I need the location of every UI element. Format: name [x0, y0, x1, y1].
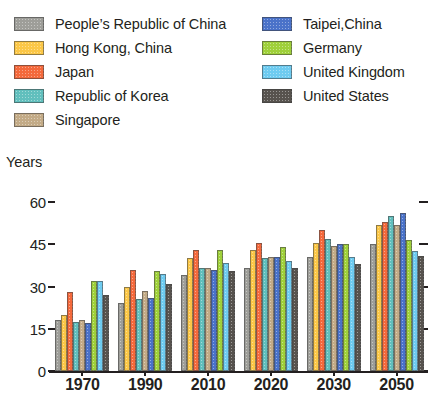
legend-item-label: People’s Republic of China	[55, 16, 226, 32]
bar[interactable]	[103, 295, 109, 371]
legend-swatch-japan	[14, 65, 44, 79]
legend-item[interactable]: People’s Republic of China	[14, 12, 244, 36]
bar-group-bars	[307, 202, 361, 371]
legend-swatch-hong-kong	[14, 41, 44, 55]
legend-item[interactable]: Taipei,China	[262, 12, 432, 36]
legend-swatch-uk	[262, 65, 292, 79]
bar-group: 1990	[114, 202, 177, 371]
legend-item-label: Japan	[55, 64, 94, 80]
legend-item-label: United Kingdom	[303, 64, 405, 80]
legend-swatch-korea	[14, 89, 44, 103]
bar[interactable]	[418, 256, 424, 371]
y-axis-tick-label: 30	[0, 278, 46, 295]
plot-area: 197019902010202020302050	[51, 202, 428, 371]
legend-item[interactable]: Japan	[14, 60, 244, 84]
bar[interactable]	[166, 284, 172, 371]
bar-group: 1970	[51, 202, 114, 371]
x-axis-tick-label: 2030	[302, 376, 365, 394]
legend-item-label: Taipei,China	[303, 16, 382, 32]
bar-group-bars	[244, 202, 298, 371]
x-axis-tick-label: 2050	[365, 376, 428, 394]
legend-item-label: United States	[303, 88, 389, 104]
bar-chart: Years 015304560 197019902010202020302050	[0, 142, 432, 403]
legend-swatch-taipei	[262, 17, 292, 31]
legend-column-right: Taipei,ChinaGermanyUnited KingdomUnited …	[262, 12, 432, 108]
legend-item[interactable]: Singapore	[14, 108, 244, 132]
bar-group: 2030	[302, 202, 365, 371]
x-axis-line	[49, 371, 428, 373]
legend-swatch-germany	[262, 41, 292, 55]
x-axis-tick-label: 2010	[177, 376, 240, 394]
legend-item[interactable]: United States	[262, 84, 432, 108]
legend-item[interactable]: Republic of Korea	[14, 84, 244, 108]
legend-item[interactable]: United Kingdom	[262, 60, 432, 84]
y-axis-tick-label: 0	[0, 363, 46, 380]
legend-column-left: People’s Republic of ChinaHong Kong, Chi…	[14, 12, 244, 132]
bar[interactable]	[355, 264, 361, 371]
legend-item-label: Hong Kong, China	[55, 40, 172, 56]
x-axis-tick-label: 1970	[51, 376, 114, 394]
y-axis-tick-label: 60	[0, 194, 46, 211]
y-axis-title: Years	[6, 154, 42, 170]
y-axis-tick-label: 45	[0, 236, 46, 253]
y-axis-tick-label: 15	[0, 320, 46, 337]
bar[interactable]	[292, 268, 298, 371]
bar-group-bars	[181, 202, 235, 371]
legend-item[interactable]: Germany	[262, 36, 432, 60]
bar[interactable]	[229, 271, 235, 371]
bar-group: 2050	[365, 202, 428, 371]
legend-item-label: Germany	[303, 40, 362, 56]
legend-swatch-prc	[14, 17, 44, 31]
legend-swatch-usa	[262, 89, 292, 103]
legend-item-label: Republic of Korea	[55, 88, 169, 104]
legend-item[interactable]: Hong Kong, China	[14, 36, 244, 60]
legend-swatch-singapore	[14, 113, 44, 127]
bar-group-bars	[370, 202, 424, 371]
x-axis-tick-label: 1990	[114, 376, 177, 394]
legend-item-label: Singapore	[55, 112, 120, 128]
chart-legend: People’s Republic of ChinaHong Kong, Chi…	[0, 0, 432, 142]
bar-group-bars	[118, 202, 172, 371]
x-axis-tick-label: 2020	[240, 376, 303, 394]
bar-group: 2010	[177, 202, 240, 371]
bar-group-bars	[55, 202, 109, 371]
bar-group: 2020	[240, 202, 303, 371]
